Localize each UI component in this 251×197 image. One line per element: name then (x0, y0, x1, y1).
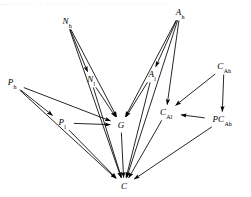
node-label-cal: CAl (160, 108, 172, 119)
node-base-pcab: PC (213, 114, 225, 124)
edge-cab-to-cal (176, 74, 216, 106)
node-subscript-cal: Al (166, 113, 172, 119)
node-base-al: A (148, 69, 154, 79)
edge-ph-to-g (24, 88, 111, 121)
edge-nl-to-c (93, 87, 121, 177)
node-label-pl: Pl (58, 118, 65, 129)
node-label-c: C (121, 182, 127, 191)
node-subscript-ah: h (182, 13, 185, 19)
node-label-ph: Ph (8, 78, 17, 89)
edge-pcab-to-cal (181, 115, 205, 118)
node-label-cab: CAh (217, 62, 230, 73)
edge-cab-to-pcab (222, 75, 223, 112)
edge-g-to-c (121, 133, 123, 178)
node-base-pl: P (58, 117, 64, 127)
node-subscript-cab: Ah (224, 67, 231, 73)
edge-pcab-to-c (134, 127, 212, 179)
edge-nh-to-nl (70, 29, 88, 71)
node-subscript-pcab: Ah (224, 120, 231, 126)
node-base-c: C (121, 181, 127, 191)
node-base-ph: P (8, 77, 14, 87)
node-label-nl: Nl (87, 75, 95, 86)
node-base-ah: A (176, 7, 182, 17)
edge-al-to-g (126, 82, 147, 117)
edge-nh-to-g (71, 29, 117, 116)
node-label-pcab: PCAh (213, 115, 232, 126)
node-base-g: G (118, 120, 125, 130)
edge-nh-to-c (70, 29, 122, 177)
graph-edges-canvas (0, 0, 251, 197)
node-subscript-nh: h (69, 22, 72, 28)
node-label-ah: Ah (176, 8, 185, 19)
node-subscript-ph: h (14, 83, 17, 89)
node-label-nh: Nh (62, 17, 71, 28)
causal-path-diagram: — ·· ·· ·· · · ·· · ··· · ·· · · ·· ·· ·… (0, 0, 251, 197)
node-label-al: Al (148, 70, 155, 81)
node-subscript-nl: l (93, 80, 95, 86)
edge-ph-to-pl (21, 90, 53, 116)
node-label-g: G (118, 121, 125, 130)
edge-ph-to-c (20, 90, 116, 178)
edge-layer (20, 20, 224, 179)
